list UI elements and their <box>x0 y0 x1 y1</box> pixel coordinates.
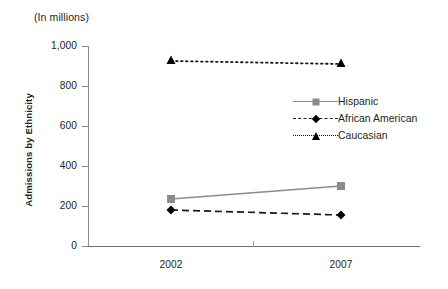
legend-label-caucasian: Caucasian <box>338 130 388 141</box>
series-line-caucasian <box>171 61 341 64</box>
chart-legend: Hispanic African American Caucasian <box>293 93 417 144</box>
data-point-hispanic-2002 <box>167 195 175 203</box>
y-tick-label-600: 600 <box>60 120 77 131</box>
y-tick-label-1000: 1,000 <box>51 40 77 51</box>
triangle-marker-icon <box>312 132 320 140</box>
series-line-hispanic <box>171 186 341 199</box>
y-tick-label-200: 200 <box>60 200 77 211</box>
y-tick-label-200-box: 200 <box>30 200 77 212</box>
legend-item-caucasian[interactable]: Caucasian <box>293 127 417 144</box>
y-tick-label-800-box: 800 <box>30 80 77 92</box>
legend-item-african-american[interactable]: African American <box>293 110 417 127</box>
data-point-african-american-2002 <box>167 206 176 215</box>
x-tick-label-2007: 2007 <box>311 259 371 270</box>
data-point-caucasian-2007 <box>337 59 346 68</box>
y-tick-label-600-box: 600 <box>30 120 77 132</box>
line-chart: (In millions) Admissions by Ethnicity 1,… <box>0 0 448 289</box>
y-tick-label-800: 800 <box>60 80 77 91</box>
square-marker-icon <box>312 98 319 105</box>
series-line-african-american <box>171 210 341 215</box>
legend-label-hispanic: Hispanic <box>338 96 378 107</box>
legend-swatch-hispanic <box>293 95 338 109</box>
y-tick-label-1000-box: 1,000 <box>30 40 77 52</box>
y-axis-line <box>88 46 89 246</box>
y-tick-label-400: 400 <box>60 160 77 171</box>
data-point-caucasian-2002 <box>167 56 176 65</box>
x-tick-label-2002: 2002 <box>141 259 201 270</box>
legend-label-african-american: African American <box>338 113 417 124</box>
legend-swatch-african-american <box>293 112 338 126</box>
data-point-hispanic-2007 <box>337 182 345 190</box>
chart-title: (In millions) <box>34 11 89 23</box>
data-point-african-american-2007 <box>337 211 346 220</box>
legend-swatch-caucasian <box>293 129 338 143</box>
y-tick-label-400-box: 400 <box>30 160 77 172</box>
legend-item-hispanic[interactable]: Hispanic <box>293 93 417 110</box>
y-axis-title: Admissions by Ethnicity <box>23 93 34 207</box>
x-tick-mark-center <box>253 241 254 247</box>
y-tick-label-0-box: 0 <box>30 240 77 252</box>
diamond-marker-icon <box>311 114 319 122</box>
y-tick-label-0: 0 <box>71 240 77 251</box>
